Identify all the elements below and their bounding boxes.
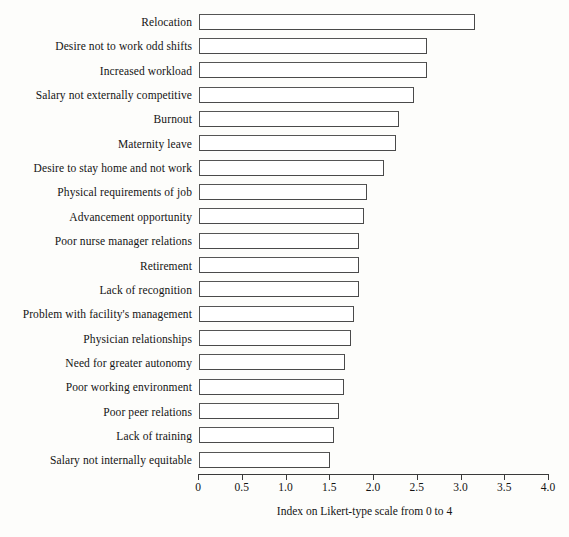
category-label: Poor peer relations — [103, 400, 192, 424]
x-axis-tick-label: 1.0 — [266, 481, 306, 493]
category-label: Problem with facility's management — [23, 302, 192, 326]
horizontal-bar-chart: RelocationDesire not to work odd shiftsI… — [0, 0, 569, 537]
bar — [199, 452, 330, 468]
bar — [199, 306, 354, 322]
bar-row: Lack of training — [0, 424, 569, 448]
bar — [199, 111, 399, 127]
bar — [199, 354, 345, 370]
bar — [199, 281, 359, 297]
category-label: Physical requirements of job — [57, 180, 192, 204]
bar — [199, 62, 427, 78]
category-label: Increased workload — [100, 59, 192, 83]
x-axis-tick — [461, 474, 462, 480]
category-label: Desire to stay home and not work — [34, 156, 192, 180]
x-axis-tick — [198, 474, 199, 480]
category-label: Maternity leave — [118, 132, 192, 156]
bar — [199, 330, 351, 346]
category-label: Burnout — [154, 107, 192, 131]
bar-row: Physician relationships — [0, 327, 569, 351]
bar-row: Salary not internally equitable — [0, 448, 569, 472]
category-label: Poor nurse manager relations — [55, 229, 192, 253]
x-axis-tick-label: 3.0 — [441, 481, 481, 493]
bar-row: Advancement opportunity — [0, 205, 569, 229]
x-axis-tick — [373, 474, 374, 480]
bar — [199, 135, 396, 151]
category-label: Retirement — [140, 254, 192, 278]
bar — [199, 87, 414, 103]
bar-row: Burnout — [0, 107, 569, 131]
x-axis-tick-label: 1.5 — [309, 481, 349, 493]
x-axis-tick — [242, 474, 243, 480]
bar-row: Problem with facility's management — [0, 302, 569, 326]
bar — [199, 403, 339, 419]
category-label: Advancement opportunity — [69, 205, 192, 229]
category-label: Relocation — [141, 10, 192, 34]
bar-row: Poor working environment — [0, 375, 569, 399]
bar-row: Poor nurse manager relations — [0, 229, 569, 253]
x-axis-title: Index on Likert-type scale from 0 to 4 — [0, 505, 569, 517]
bar-row: Physical requirements of job — [0, 180, 569, 204]
bar-row: Lack of recognition — [0, 278, 569, 302]
x-axis-tick-label: 2.5 — [397, 481, 437, 493]
category-label: Lack of recognition — [99, 278, 192, 302]
x-axis-tick-label: 4.0 — [528, 481, 568, 493]
bar-row: Increased workload — [0, 59, 569, 83]
bar — [199, 184, 367, 200]
x-axis-tick-label: 0 — [178, 481, 218, 493]
category-label: Lack of training — [116, 424, 192, 448]
bar-row: Salary not externally competitive — [0, 83, 569, 107]
bar-row: Need for greater autonomy — [0, 351, 569, 375]
bar — [199, 233, 359, 249]
category-label: Salary not internally equitable — [50, 448, 192, 472]
bar-row: Retirement — [0, 254, 569, 278]
category-label: Desire not to work odd shifts — [55, 34, 192, 58]
bar-row: Poor peer relations — [0, 400, 569, 424]
category-label: Poor working environment — [66, 375, 192, 399]
bar — [199, 379, 344, 395]
category-label: Physician relationships — [83, 327, 192, 351]
bar-row: Desire not to work odd shifts — [0, 34, 569, 58]
x-axis-tick-label: 0.5 — [222, 481, 262, 493]
bar — [199, 160, 384, 176]
bar-row: Maternity leave — [0, 132, 569, 156]
x-axis-tick — [548, 474, 549, 480]
bar — [199, 257, 359, 273]
bar — [199, 38, 427, 54]
x-axis-tick — [417, 474, 418, 480]
x-axis-tick — [504, 474, 505, 480]
bar-row: Desire to stay home and not work — [0, 156, 569, 180]
x-axis-tick-label: 3.5 — [484, 481, 524, 493]
bar — [199, 427, 334, 443]
bar — [199, 208, 364, 224]
category-label: Salary not externally competitive — [36, 83, 192, 107]
x-axis-tick-label: 2.0 — [353, 481, 393, 493]
x-axis-tick — [329, 474, 330, 480]
bar — [199, 14, 475, 30]
bar-row: Relocation — [0, 10, 569, 34]
x-axis-title-label: Index on Likert-type scale from 0 to 4 — [117, 505, 452, 517]
x-axis-tick — [286, 474, 287, 480]
category-label: Need for greater autonomy — [65, 351, 192, 375]
